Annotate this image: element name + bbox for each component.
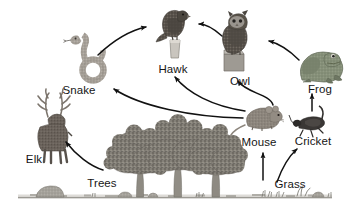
label-grass: Grass xyxy=(274,178,305,190)
label-trees: Trees xyxy=(87,177,117,189)
label-cricket: Cricket xyxy=(295,135,332,147)
food-web-canvas: Elk Snake Hawk Owl Frog Mouse Cricket Tr… xyxy=(0,0,345,215)
label-frog: Frog xyxy=(308,83,332,95)
food-web-diagram: Elk Snake Hawk Owl Frog Mouse Cricket Tr… xyxy=(0,0,345,215)
label-elk: Elk xyxy=(26,153,42,165)
label-hawk: Hawk xyxy=(158,63,187,75)
label-mouse: Mouse xyxy=(241,136,276,148)
label-snake: Snake xyxy=(62,84,95,96)
label-owl: Owl xyxy=(230,75,250,87)
